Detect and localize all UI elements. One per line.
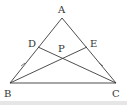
label-a: A <box>57 4 66 15</box>
bottom-divider <box>0 101 127 105</box>
segment-ac <box>62 18 116 83</box>
label-e: E <box>90 38 97 49</box>
segment-cd <box>38 47 116 83</box>
label-c: C <box>112 88 120 99</box>
segment-ab <box>10 18 62 83</box>
segment-be <box>10 47 87 83</box>
triangle-diagram: A D E P B C <box>0 0 127 105</box>
label-d: D <box>28 38 36 49</box>
label-p: P <box>58 43 65 54</box>
label-b: B <box>4 88 11 99</box>
